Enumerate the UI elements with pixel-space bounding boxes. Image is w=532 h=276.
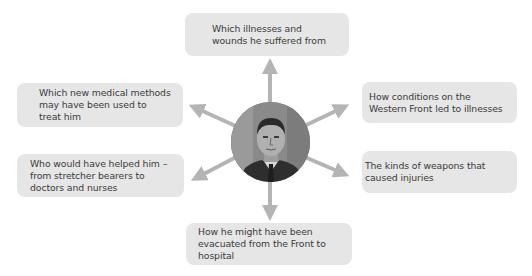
node-text: Which illnesses and wounds he suffered f… bbox=[212, 23, 327, 47]
node-text: Which new medical methods may have been … bbox=[39, 87, 171, 123]
node-weapons: The kinds of weapons that caused injurie… bbox=[362, 151, 517, 193]
node-text: The kinds of weapons that caused injurie… bbox=[365, 160, 513, 184]
man-portrait-icon bbox=[231, 102, 310, 182]
node-evacuation: How he might have been evacuated from th… bbox=[186, 223, 352, 265]
portrait-photo bbox=[231, 102, 310, 182]
node-western-front-conditions: How conditions on the Western Front led … bbox=[362, 82, 517, 123]
node-text: How conditions on the Western Front led … bbox=[369, 91, 509, 115]
node-text: Who would have helped him – from stretch… bbox=[30, 158, 178, 194]
node-who-helped: Who would have helped him – from stretch… bbox=[17, 154, 184, 197]
node-illnesses-wounds: Which illnesses and wounds he suffered f… bbox=[185, 13, 349, 56]
node-text: How he might have been evacuated from th… bbox=[198, 226, 344, 262]
node-medical-methods: Which new medical methods may have been … bbox=[17, 83, 183, 127]
